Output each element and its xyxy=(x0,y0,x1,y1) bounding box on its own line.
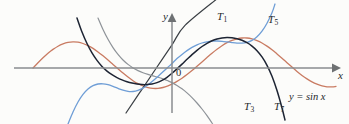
x-axis-label: x xyxy=(338,70,343,81)
curve-y-sin-x xyxy=(33,38,336,89)
y-axis-arrowhead xyxy=(168,13,177,22)
curve-label-t5-subscript: 5 xyxy=(274,18,278,27)
curve-label-t5: T5 xyxy=(268,14,278,25)
curves-layer xyxy=(33,0,336,124)
sine-equation-label: y = sin x xyxy=(289,92,326,103)
curve-label-t3-subscript: 3 xyxy=(250,105,254,114)
curve-t3 xyxy=(98,18,215,124)
origin-label: 0 xyxy=(176,68,181,79)
curve-label-t1: T1 xyxy=(217,11,227,22)
curve-label-t1-subscript: 1 xyxy=(223,15,227,24)
taylor-polynomial-figure: y x 0 T1 T5 T3 T7 y = sin x xyxy=(0,0,349,124)
curve-label-t7: T7 xyxy=(274,101,284,112)
curve-label-t3: T3 xyxy=(244,101,254,112)
curve-label-t7-subscript: 7 xyxy=(280,105,284,114)
y-axis-label: y xyxy=(163,11,168,22)
plot-canvas xyxy=(0,0,349,124)
